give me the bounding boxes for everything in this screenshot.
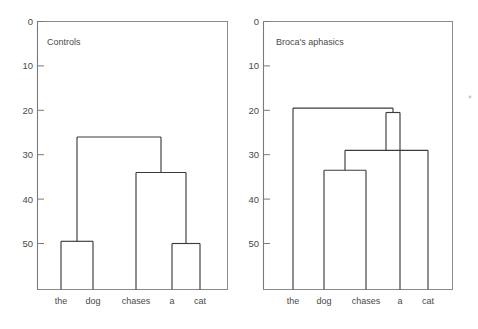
y-axis-labels-brocas: 0 10 20 30 40 50 bbox=[248, 16, 259, 249]
leaf-label-a: a bbox=[397, 296, 402, 306]
panel-title-brocas: Broca's aphasics bbox=[276, 37, 344, 47]
panel-controls-svg: 0 10 20 30 40 50 Controls bbox=[0, 0, 239, 329]
leaf-label-chases: chases bbox=[352, 296, 381, 306]
leaf-label-cat: cat bbox=[422, 296, 435, 306]
y-axis-ticks-controls bbox=[38, 22, 45, 244]
leaf-label-a: a bbox=[169, 296, 174, 306]
x-axis-labels-brocas: the dog chases a cat bbox=[287, 296, 435, 306]
leaf-label-the: the bbox=[287, 296, 300, 306]
page-speck bbox=[469, 96, 472, 99]
leaf-label-dog: dog bbox=[316, 296, 331, 306]
y-tick-label: 50 bbox=[22, 238, 33, 249]
leaf-label-chases: chases bbox=[122, 296, 151, 306]
panel-title-controls: Controls bbox=[47, 37, 81, 47]
dendrogram-brocas bbox=[293, 108, 428, 289]
dendrogram-controls bbox=[61, 137, 200, 290]
y-tick-label: 40 bbox=[22, 194, 33, 205]
y-tick-label: 10 bbox=[22, 60, 33, 71]
y-axis-ticks-brocas bbox=[264, 22, 271, 244]
panel-controls: 0 10 20 30 40 50 Controls bbox=[0, 0, 239, 329]
y-tick-label: 0 bbox=[254, 16, 259, 27]
y-tick-label: 20 bbox=[22, 105, 33, 116]
y-axis-labels-controls: 0 10 20 30 40 50 bbox=[22, 16, 33, 249]
leaf-label-the: the bbox=[55, 296, 68, 306]
leaf-label-cat: cat bbox=[194, 296, 207, 306]
plot-frame-controls bbox=[37, 22, 228, 290]
leaf-label-dog: dog bbox=[85, 296, 100, 306]
panel-brocas-svg: 0 10 20 30 40 50 Broca's aphasics bbox=[239, 0, 478, 329]
y-tick-label: 20 bbox=[248, 105, 259, 116]
y-tick-label: 50 bbox=[248, 238, 259, 249]
panel-brocas-aphasics: 0 10 20 30 40 50 Broca's aphasics bbox=[239, 0, 478, 329]
y-tick-label: 30 bbox=[22, 149, 33, 160]
y-tick-label: 0 bbox=[28, 16, 33, 27]
y-tick-label: 30 bbox=[248, 149, 259, 160]
x-axis-labels-controls: the dog chases a cat bbox=[55, 296, 207, 306]
dendrogram-figure: 0 10 20 30 40 50 Controls bbox=[0, 0, 478, 329]
y-tick-label: 40 bbox=[248, 194, 259, 205]
plot-frame-brocas bbox=[263, 22, 453, 290]
y-tick-label: 10 bbox=[248, 60, 259, 71]
